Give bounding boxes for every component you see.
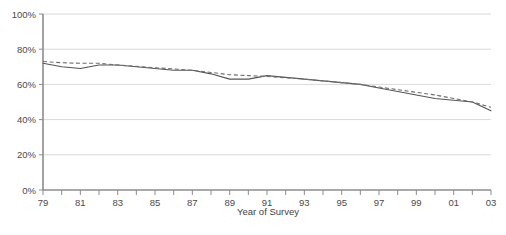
y-tick-label: 20% <box>17 149 37 160</box>
x-tick-label: 99 <box>411 197 422 208</box>
x-tick-label: 89 <box>224 197 235 208</box>
y-tick-labels: 0%20%40%60%80%100% <box>12 9 37 196</box>
chart-plot-area: 0%20%40%60%80%100% 798183858789919395979… <box>0 0 506 235</box>
x-tick-label: 03 <box>486 197 497 208</box>
x-tick-label: 79 <box>38 197 49 208</box>
x-tick-label: 87 <box>187 197 198 208</box>
x-tick-label: 83 <box>112 197 123 208</box>
x-tick-label: 93 <box>299 197 310 208</box>
x-axis-title: Year of Survey <box>237 206 299 217</box>
y-tick-label: 0% <box>22 185 36 196</box>
x-tick-label: 97 <box>374 197 385 208</box>
axis-lines <box>43 14 491 190</box>
x-tick-label: 81 <box>75 197 86 208</box>
y-tick-label: 40% <box>17 114 37 125</box>
data-line-series <box>43 63 491 111</box>
x-tick-label: 85 <box>150 197 161 208</box>
y-tick-label: 80% <box>17 44 37 55</box>
data-series-layer <box>43 62 491 111</box>
y-tick-label: 100% <box>12 9 37 20</box>
x-tick-label: 01 <box>448 197 459 208</box>
line-chart: 0%20%40%60%80%100% 798183858789919395979… <box>0 0 506 235</box>
x-tick-label: 95 <box>336 197 347 208</box>
gridlines <box>43 14 491 155</box>
y-tick-label: 60% <box>17 79 37 90</box>
